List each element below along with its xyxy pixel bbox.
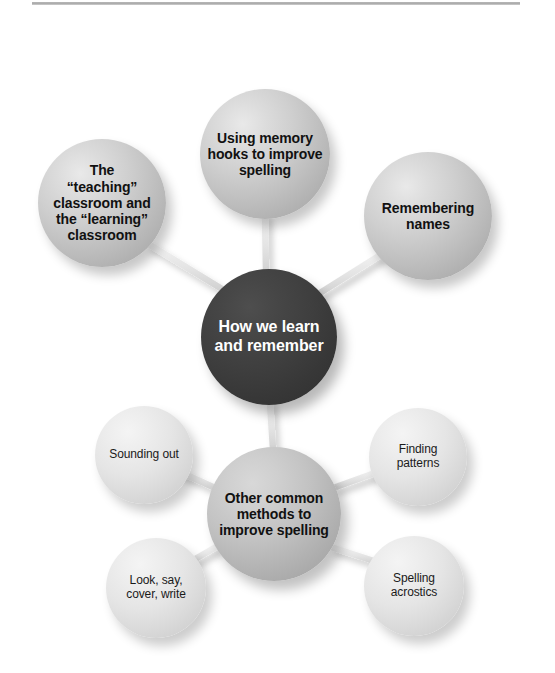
diagram-canvas: The “teaching” classroom and the “learni… bbox=[0, 0, 555, 673]
node-label: Other common methods to improve spelling bbox=[219, 490, 329, 539]
edge-center-to-other-methods bbox=[270, 403, 273, 449]
node-label: Look, say, cover, write bbox=[126, 574, 186, 602]
node-label: Sounding out bbox=[109, 448, 179, 462]
node-look-say-cover-write[interactable]: Look, say, cover, write bbox=[106, 538, 206, 638]
node-memory-hooks-spelling[interactable]: Using memory hooks to improve spelling bbox=[200, 89, 330, 219]
node-label: How we learn and remember bbox=[214, 318, 323, 355]
node-label: Remembering names bbox=[382, 200, 474, 232]
node-label: Finding patterns bbox=[397, 443, 440, 471]
node-other-common-methods[interactable]: Other common methods to improve spelling bbox=[207, 447, 341, 581]
edge-center-to-remembering-names bbox=[320, 254, 382, 293]
node-remembering-names[interactable]: Remembering names bbox=[364, 152, 492, 280]
node-label: The “teaching” classroom and the “learni… bbox=[53, 162, 151, 243]
node-label: Spelling acrostics bbox=[391, 572, 437, 600]
node-sounding-out[interactable]: Sounding out bbox=[95, 406, 193, 504]
edge-center-to-memory-hooks bbox=[265, 216, 266, 272]
node-center-how-we-learn-and-remember[interactable]: How we learn and remember bbox=[201, 269, 337, 405]
node-spelling-acrostics[interactable]: Spelling acrostics bbox=[364, 536, 464, 636]
node-teaching-learning-classroom[interactable]: The “teaching” classroom and the “learni… bbox=[38, 139, 166, 267]
node-finding-patterns[interactable]: Finding patterns bbox=[369, 408, 467, 506]
node-label: Using memory hooks to improve spelling bbox=[207, 130, 322, 179]
edge-center-to-teaching-classroom bbox=[150, 245, 222, 289]
